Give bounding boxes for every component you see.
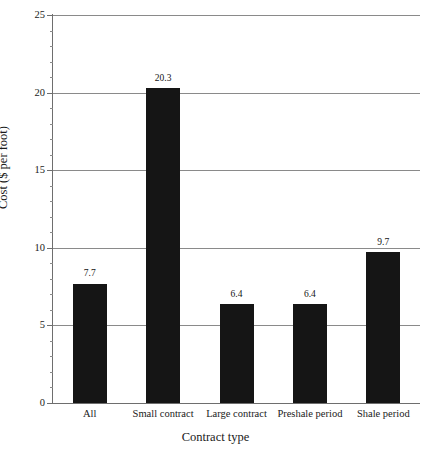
y-tick-label: 0	[40, 398, 45, 409]
bar	[220, 304, 254, 403]
y-tick	[47, 325, 53, 326]
y-minor-tick	[50, 232, 53, 233]
y-minor-tick	[50, 139, 53, 140]
gridline	[53, 93, 420, 94]
y-tick-label: 15	[35, 165, 46, 176]
gridline	[53, 170, 420, 171]
y-tick	[47, 170, 53, 171]
y-minor-tick	[50, 341, 53, 342]
y-minor-tick	[50, 294, 53, 295]
gridline	[53, 15, 420, 16]
y-tick-label: 20	[35, 87, 46, 98]
y-minor-tick	[50, 124, 53, 125]
y-minor-tick	[50, 217, 53, 218]
y-minor-tick	[50, 356, 53, 357]
y-minor-tick	[50, 155, 53, 156]
bar	[366, 252, 400, 403]
bar-chart-figure: Cost ($ per foot) Contract type 05101520…	[0, 0, 431, 453]
gridline	[53, 248, 420, 249]
x-tick-label: All	[83, 409, 96, 420]
x-axis-label: Contract type	[0, 430, 431, 445]
bar	[146, 88, 180, 403]
bar	[73, 284, 107, 404]
bar-value-label: 7.7	[84, 269, 96, 279]
y-tick-label: 10	[35, 243, 46, 254]
y-minor-tick	[50, 310, 53, 311]
y-tick	[47, 248, 53, 249]
x-axis-spine	[53, 403, 420, 404]
bar-value-label: 6.4	[304, 290, 316, 300]
y-minor-tick	[50, 186, 53, 187]
bar	[293, 304, 327, 403]
y-minor-tick	[50, 279, 53, 280]
y-minor-tick	[50, 108, 53, 109]
y-tick	[47, 403, 53, 404]
x-tick-label: Shale period	[357, 409, 410, 420]
y-minor-tick	[50, 201, 53, 202]
bar-value-label: 20.3	[155, 74, 172, 84]
y-tick	[47, 93, 53, 94]
x-tick-label: Small contract	[133, 409, 194, 420]
y-minor-tick	[50, 387, 53, 388]
y-minor-tick	[50, 62, 53, 63]
y-minor-tick	[50, 77, 53, 78]
y-minor-tick	[50, 31, 53, 32]
y-tick-label: 25	[35, 10, 46, 21]
bar-value-label: 6.4	[231, 290, 243, 300]
y-minor-tick	[50, 372, 53, 373]
y-minor-tick	[50, 46, 53, 47]
y-tick	[47, 15, 53, 16]
x-tick-label: Large contract	[206, 409, 267, 420]
y-axis-label: Cost ($ per foot)	[0, 126, 11, 209]
y-minor-tick	[50, 263, 53, 264]
x-tick-label: Preshale period	[277, 409, 342, 420]
y-tick-label: 5	[40, 320, 45, 331]
bar-value-label: 9.7	[377, 238, 389, 248]
plot-area: 0510152025 7.720.36.46.49.7	[53, 15, 420, 403]
